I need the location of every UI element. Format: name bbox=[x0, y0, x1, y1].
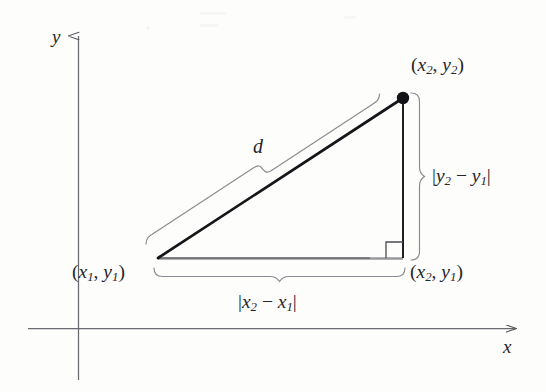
comma: , bbox=[433, 54, 443, 75]
var-x: x bbox=[417, 261, 426, 282]
distance-formula-figure: y x (x2, y2) (x1, y1) (x2, y1) d |y2 − y… bbox=[0, 0, 546, 392]
abs-bar-right: | bbox=[487, 165, 491, 186]
diagram-canvas bbox=[0, 0, 546, 392]
delta-y-label: |y2 − y1| bbox=[432, 166, 491, 186]
sub-1b: 1 bbox=[112, 270, 118, 284]
point-marker-p2 bbox=[397, 92, 409, 104]
right-angle-marker bbox=[386, 242, 403, 258]
comma: , bbox=[94, 261, 104, 282]
sub-2: 2 bbox=[426, 63, 432, 77]
sub-2: 2 bbox=[425, 270, 431, 284]
sub-1: 1 bbox=[87, 270, 93, 284]
var-x2: x bbox=[242, 291, 251, 312]
var-x: x bbox=[418, 54, 427, 75]
minus-sign: − bbox=[257, 291, 278, 312]
abs-bar-right: | bbox=[293, 291, 297, 312]
sub-2b: 2 bbox=[451, 63, 457, 77]
sub-2: 2 bbox=[445, 174, 451, 188]
point-label-x1y1: (x1, y1) bbox=[72, 262, 125, 282]
var-y2: y bbox=[436, 165, 445, 186]
var-y: y bbox=[441, 261, 450, 282]
var-x: x bbox=[79, 261, 88, 282]
axes-group bbox=[28, 36, 516, 380]
var-y: y bbox=[442, 54, 451, 75]
brace-delta-y bbox=[411, 93, 425, 260]
minus-sign: − bbox=[451, 165, 472, 186]
var-y: y bbox=[103, 261, 112, 282]
sub-1: 1 bbox=[286, 300, 292, 314]
paren-close: ) bbox=[456, 261, 463, 282]
x-axis-label: x bbox=[503, 337, 511, 356]
scan-artifacts bbox=[146, 12, 356, 30]
distance-label-d: d bbox=[253, 136, 263, 156]
hypotenuse bbox=[158, 98, 403, 258]
paren-close: ) bbox=[118, 261, 125, 282]
y-axis-label: y bbox=[52, 27, 60, 46]
brace-delta-x bbox=[154, 268, 405, 282]
comma: , bbox=[432, 261, 442, 282]
brace-d bbox=[146, 94, 380, 244]
point-label-x2y1: (x2, y1) bbox=[410, 262, 463, 282]
paren-close: ) bbox=[457, 54, 464, 75]
sub-1: 1 bbox=[450, 270, 456, 284]
sub-1: 1 bbox=[480, 174, 486, 188]
sub-2: 2 bbox=[251, 300, 257, 314]
delta-x-label: |x2 − x1| bbox=[238, 292, 297, 312]
triangle-group bbox=[158, 92, 409, 259]
point-label-x2y2: (x2, y2) bbox=[411, 55, 464, 75]
